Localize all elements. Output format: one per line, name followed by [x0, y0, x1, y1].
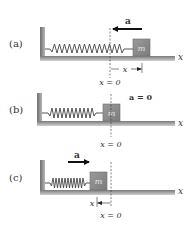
panel-b: (b) x m a = 0 x = 0 [9, 92, 183, 149]
origin-label-c: x = 0 [100, 211, 121, 220]
accel-label-b: a = 0 [129, 92, 152, 102]
axis-label-b: x [178, 118, 183, 128]
floor-a [40, 56, 175, 61]
mass-label-c: m [95, 177, 103, 186]
wall-c [40, 160, 45, 195]
panel-label-a: (a) [9, 38, 23, 49]
spring-c [45, 178, 90, 188]
panel-label-b: (b) [9, 104, 23, 115]
panel-label-c: (c) [9, 172, 23, 183]
axis-label-a: x [178, 52, 183, 62]
spring-mass-diagram: (a) x m a x x = 0 (b) x m a = 0 x = 0 (c… [0, 0, 193, 227]
spring-b [42, 108, 103, 118]
panel-a: (a) x m a x x = 0 [9, 16, 183, 87]
displacement-label-c: x [90, 199, 95, 208]
displacement-label-a: x [123, 65, 128, 74]
spring-a [45, 44, 133, 53]
floor-b [37, 121, 175, 126]
axis-label-c: x [178, 186, 183, 196]
panel-c: (c) x m a x x = 0 [9, 150, 183, 220]
origin-label-b: x = 0 [100, 140, 121, 149]
wall-a [40, 27, 45, 61]
accel-label-c: a [74, 150, 80, 160]
mass-label-b: m [108, 109, 116, 118]
origin-label-a: x = 0 [99, 78, 120, 87]
accel-label-a: a [125, 16, 131, 26]
floor-c [40, 190, 175, 195]
mass-label-a: m [138, 44, 146, 53]
